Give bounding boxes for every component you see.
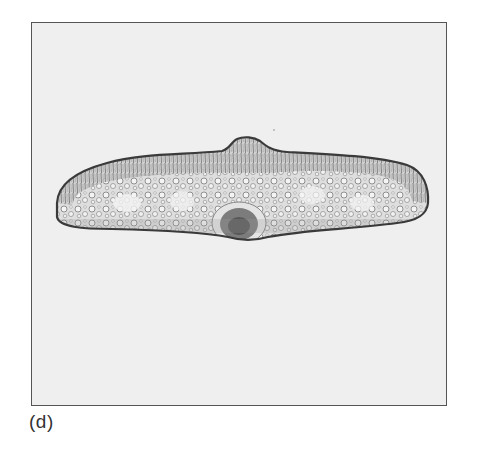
leaf-cross-section-image (32, 23, 446, 405)
micrograph-frame (31, 22, 447, 406)
figure: (d) (0, 0, 478, 458)
leaf-tissue (32, 123, 446, 253)
panel-label: (d) (29, 411, 54, 433)
